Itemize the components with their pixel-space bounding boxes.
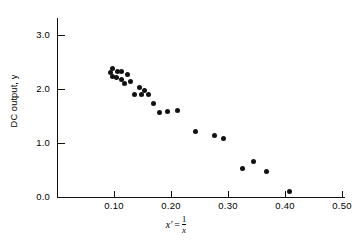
- data-point: [157, 110, 162, 115]
- data-point: [240, 166, 245, 171]
- y-tick-mark: [58, 143, 65, 144]
- x-tick-label: 0.10: [94, 200, 134, 211]
- y-axis-title: DC output, y: [9, 51, 19, 151]
- x-axis-title-equals: =: [172, 219, 182, 230]
- x-tick-label: 0.30: [208, 200, 248, 211]
- fraction-numerator: 1: [182, 215, 186, 224]
- x-axis-line: [57, 197, 345, 198]
- x-axis-title-fraction: 1x: [182, 215, 186, 235]
- data-point: [221, 136, 226, 141]
- x-axis-title: x'=1x: [0, 216, 352, 236]
- data-point: [119, 69, 124, 74]
- data-point: [251, 159, 256, 164]
- data-point: [137, 85, 142, 90]
- fraction-denominator: x: [182, 226, 186, 235]
- x-tick-mark: [342, 191, 343, 198]
- data-point: [175, 108, 180, 113]
- x-tick-mark: [114, 191, 115, 198]
- y-tick-label: 2.0: [20, 83, 50, 94]
- y-tick-label: 0.0: [20, 191, 50, 202]
- x-tick-label: 0.20: [151, 200, 191, 211]
- y-tick-label: 1.0: [20, 137, 50, 148]
- data-point: [264, 169, 269, 174]
- data-point: [139, 92, 144, 97]
- x-tick-label: 0.50: [322, 200, 352, 211]
- data-point: [132, 92, 137, 97]
- scatter-chart: 0.01.02.03.0 0.100.200.300.400.50 DC out…: [0, 0, 352, 244]
- y-axis-line: [57, 18, 58, 198]
- y-tick-label: 3.0: [20, 29, 50, 40]
- data-point: [193, 129, 198, 134]
- x-tick-mark: [171, 191, 172, 198]
- data-point: [128, 79, 133, 84]
- data-point: [287, 189, 292, 194]
- x-tick-label: 0.40: [265, 200, 305, 211]
- x-tick-mark: [228, 191, 229, 198]
- y-tick-mark: [58, 89, 65, 90]
- data-point: [146, 92, 151, 97]
- data-point: [151, 101, 156, 106]
- data-point: [122, 81, 127, 86]
- y-tick-mark: [58, 35, 65, 36]
- data-point: [125, 72, 130, 77]
- data-point: [212, 133, 217, 138]
- data-point: [165, 109, 170, 114]
